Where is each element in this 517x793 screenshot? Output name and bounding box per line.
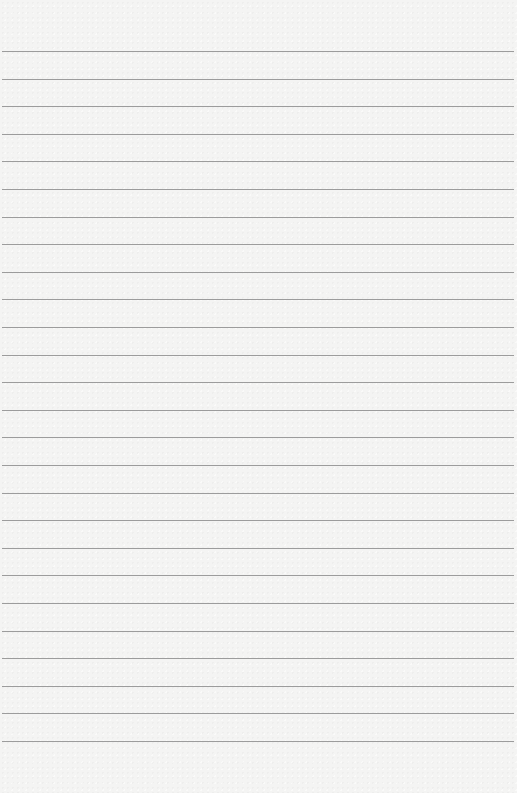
ruled-line (2, 713, 514, 714)
ruled-line (2, 189, 514, 190)
ruled-line (2, 134, 514, 135)
ruled-line (2, 327, 514, 328)
ruled-line (2, 465, 514, 466)
ruled-line (2, 217, 514, 218)
ruled-line (2, 410, 514, 411)
ruled-line (2, 355, 514, 356)
ruled-line (2, 493, 514, 494)
ruled-line (2, 272, 514, 273)
ruled-line (2, 106, 514, 107)
ruled-line (2, 548, 514, 549)
ruled-line (2, 437, 514, 438)
ruled-line (2, 575, 514, 576)
ruled-line (2, 382, 514, 383)
ruled-line (2, 741, 514, 742)
ruled-line (2, 244, 514, 245)
ruled-line (2, 79, 514, 80)
ruled-line (2, 299, 514, 300)
ruled-line (2, 51, 514, 52)
ruled-line (2, 631, 514, 632)
ruled-line (2, 658, 514, 659)
ruled-line (2, 161, 514, 162)
ruled-line (2, 603, 514, 604)
lined-paper-sheet (0, 0, 517, 793)
ruled-line (2, 686, 514, 687)
ruled-line (2, 520, 514, 521)
